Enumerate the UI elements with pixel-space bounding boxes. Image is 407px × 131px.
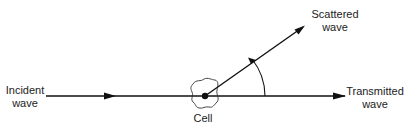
scattered-wave-label: Scattered wave <box>305 8 365 34</box>
incident-label-line1: Incident <box>4 84 46 97</box>
scattering-angle-arc <box>252 59 265 96</box>
transmitted-label-line1: Transmitted <box>343 85 407 98</box>
transmitted-label-line2: wave <box>343 98 407 111</box>
scattered-label-line1: Scattered <box>305 8 365 21</box>
incident-arrowhead-icon <box>104 93 116 100</box>
scattered-arrowhead-icon <box>295 26 306 35</box>
incident-label-line2: wave <box>4 97 46 110</box>
wave-scattering-diagram: Incident wave Scattered wave Transmitted… <box>0 0 407 131</box>
transmitted-wave-label: Transmitted wave <box>343 85 407 111</box>
cell-label: Cell <box>188 112 218 125</box>
incident-wave-label: Incident wave <box>4 84 46 110</box>
scattered-label-line2: wave <box>305 21 365 34</box>
